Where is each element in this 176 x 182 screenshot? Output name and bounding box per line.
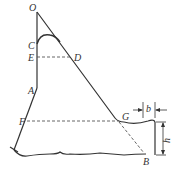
diagram-canvas: O C E D A F G B b h: [0, 0, 176, 182]
h-arrowhead-bottom: [161, 150, 165, 155]
tick-base-left: [10, 147, 18, 152]
label-f: F: [18, 116, 26, 127]
b-arrowhead-left: [138, 108, 143, 112]
label-d: D: [73, 52, 82, 63]
label-g: G: [122, 111, 129, 122]
b-arrowhead-right: [155, 108, 160, 112]
label-h-dim: h: [161, 138, 172, 143]
label-c: C: [28, 40, 35, 51]
label-a: A: [27, 85, 35, 96]
dashed-gb: [119, 122, 144, 153]
h-arrowhead-top: [161, 122, 165, 127]
line-a-base: [14, 88, 37, 150]
label-o: O: [29, 2, 36, 13]
line-og: [37, 12, 124, 122]
label-b-point: B: [143, 156, 149, 167]
ground-line: [14, 150, 146, 156]
label-b-dim: b: [146, 103, 151, 114]
label-e: E: [27, 52, 34, 63]
